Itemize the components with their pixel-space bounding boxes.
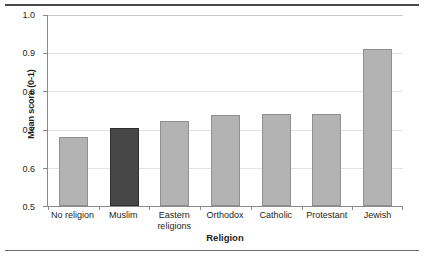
bar-slot [302,15,353,206]
bar-slot [251,15,302,206]
bar[interactable] [312,114,341,206]
x-axis-category-label: Eastern religions [149,210,200,232]
y-axis-tick-label: 1.0 [22,11,35,20]
bar-slot [149,15,200,206]
bar[interactable] [211,115,240,206]
bar-slot [200,15,251,206]
bar[interactable] [59,137,88,206]
x-axis-category-label: Protestant [301,210,352,232]
chart-figure: 1.00.90.80.70.60.5 Mean score (0-1) No r… [0,0,424,258]
bar-slot [99,15,150,206]
x-axis-category-label: No religion [47,210,98,232]
y-axis-title-wrap: Mean score (0-1) [0,16,16,192]
y-axis-title: Mean score (0-1) [26,69,36,138]
y-axis-tick-label: 0.6 [22,164,35,173]
bar-slot [48,15,99,206]
y-axis-tick-label: 0.5 [22,203,35,212]
x-axis-category-label: Muslim [98,210,149,232]
x-axis-category-label: Orthodox [200,210,251,232]
figure-bottom-rule [5,250,419,251]
bar-slot [352,15,403,206]
y-axis-tick-label: 0.9 [22,49,35,58]
x-axis-category-label: Catholic [250,210,301,232]
bars-group [48,15,403,206]
figure-top-rule [5,4,419,6]
x-axis-labels-group: No religionMuslimEastern religionsOrthod… [47,210,403,232]
bar[interactable] [262,114,291,206]
x-axis-title: Religion [47,232,403,243]
plot-area: 1.00.90.80.70.60.5 [47,15,403,207]
x-axis-category-label: Jewish [352,210,403,232]
bar[interactable] [363,49,392,206]
bar[interactable] [160,121,189,206]
bar[interactable] [110,128,139,206]
